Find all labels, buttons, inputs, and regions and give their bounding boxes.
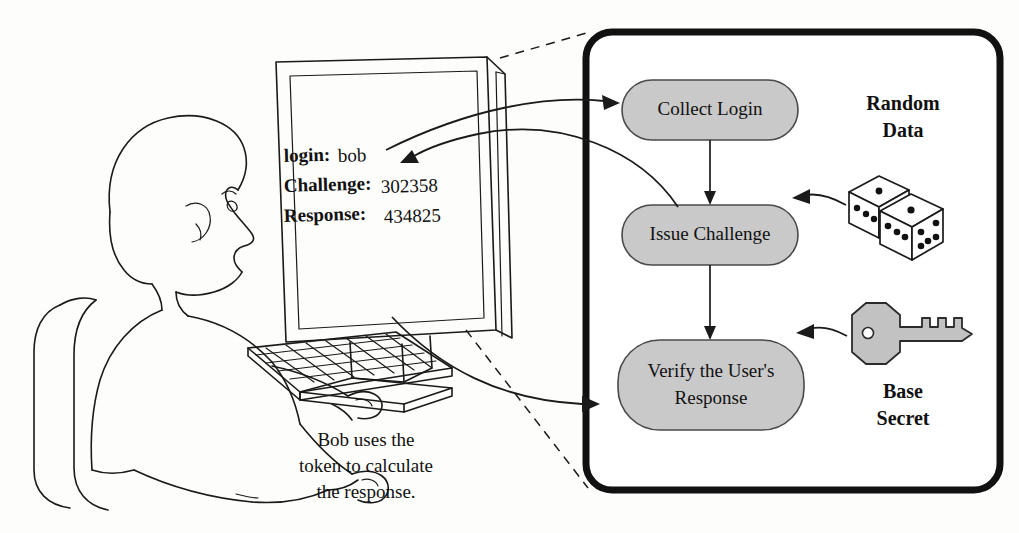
key-icon — [852, 303, 972, 364]
arrow-screen-to-collect-login — [386, 95, 620, 150]
arrow-collect-to-issue — [704, 140, 716, 205]
collect-login-label: Collect Login — [657, 98, 763, 119]
base-secret-label: Base Secret — [877, 380, 930, 429]
arrow-user-to-verify-response — [392, 317, 600, 412]
flowchart-layer: Collect Login Issue Challenge Verify the… — [0, 0, 1019, 533]
base-secret-line-1: Base — [883, 380, 923, 402]
random-data-label: Random Data — [866, 92, 940, 141]
issue-challenge-label: Issue Challenge — [650, 223, 771, 244]
base-secret-line-2: Secret — [877, 407, 930, 429]
dice-icon — [849, 176, 943, 260]
random-data-line-2: Data — [882, 119, 923, 141]
arrow-key-to-verify-response — [796, 324, 847, 339]
flow-node-issue-challenge[interactable]: Issue Challenge — [622, 205, 798, 265]
verify-response-shape — [618, 340, 804, 430]
arrow-issue-to-verify — [704, 265, 716, 340]
flow-node-collect-login[interactable]: Collect Login — [622, 80, 798, 140]
arrow-issue-challenge-to-screen — [400, 130, 678, 207]
arrow-dice-to-issue-challenge — [792, 189, 846, 205]
verify-response-label-line-2: Response — [675, 387, 748, 408]
verify-response-label-line-1: Verify the User's — [648, 360, 775, 381]
flow-node-verify-response[interactable]: Verify the User's Response — [618, 340, 804, 430]
authentication-flow-figure: login: bob Challenge: 302358 Response: 4… — [0, 0, 1019, 533]
random-data-line-1: Random — [866, 92, 940, 114]
